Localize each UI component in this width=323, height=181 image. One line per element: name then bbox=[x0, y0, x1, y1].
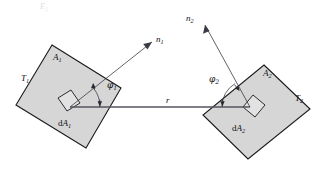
ghost-top-fragment: E₁ bbox=[39, 2, 48, 11]
distance-label-r: r bbox=[166, 95, 170, 105]
right-temperature-label: T2 bbox=[295, 93, 303, 104]
left-temperature-subscript: 1 bbox=[26, 77, 29, 84]
left-surface-group: A1 T1 dA1 bbox=[16, 45, 121, 148]
left-temperature-label: T1 bbox=[21, 73, 29, 84]
right-area-label: A2 bbox=[262, 68, 272, 79]
normal-1-label: n1 bbox=[156, 34, 164, 45]
angle-2-label: φ2 bbox=[209, 74, 219, 85]
angle-1-label: φ1 bbox=[107, 80, 117, 91]
left-area-subscript: 1 bbox=[59, 56, 62, 63]
right-temperature-subscript: 2 bbox=[300, 97, 303, 104]
figure-root: E₁ A1 T1 dA1 A2 T2 dA2 bbox=[0, 0, 323, 181]
angle-2-subscript: 2 bbox=[214, 78, 219, 85]
angle-1-subscript: 1 bbox=[113, 84, 117, 91]
normal-1-subscript: 1 bbox=[161, 38, 164, 45]
right-area-subscript: 2 bbox=[269, 72, 272, 79]
normal-2-label: n2 bbox=[186, 13, 194, 24]
left-element-subscript: 1 bbox=[68, 122, 71, 129]
normal-2-arrowhead bbox=[203, 25, 210, 34]
radiation-view-factor-diagram: E₁ A1 T1 dA1 A2 T2 dA2 bbox=[0, 0, 323, 181]
right-element-subscript: 2 bbox=[242, 127, 245, 134]
normal-2-subscript: 2 bbox=[191, 17, 194, 24]
